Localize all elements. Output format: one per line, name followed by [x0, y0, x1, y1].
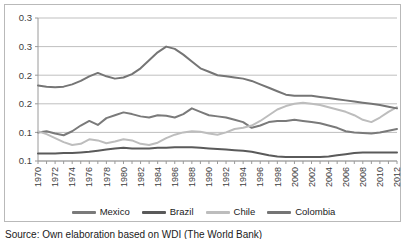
- legend-item-mexico[interactable]: Mexico: [72, 207, 130, 217]
- x-tick-label: 2008: [358, 167, 368, 187]
- y-tick-label: 0.2: [19, 98, 32, 109]
- legend-swatch-chile: [206, 211, 230, 214]
- chart-card: 0.10.10.20.20.30.3 197019721974197619781…: [4, 4, 401, 222]
- x-tick-label: 2012: [392, 167, 402, 187]
- y-tick-label: 0.3: [19, 41, 32, 52]
- figure-container: 0.10.10.20.20.30.3 197019721974197619781…: [0, 0, 406, 239]
- series-line-mexico: [38, 108, 397, 135]
- x-tick-label: 1982: [136, 167, 146, 187]
- x-tick-label: 2006: [341, 167, 351, 187]
- legend-item-brazil[interactable]: Brazil: [142, 207, 194, 217]
- chart-legend: MexicoBrazilChileColombia: [5, 203, 402, 221]
- x-tick-label: 1998: [273, 167, 283, 187]
- x-tick-label: 1986: [170, 167, 180, 187]
- y-tick-label: 0.1: [19, 127, 32, 138]
- legend-swatch-mexico: [72, 211, 96, 214]
- legend-label: Chile: [234, 207, 256, 217]
- x-tick-label: 2004: [324, 167, 334, 187]
- x-tick-label: 1972: [50, 167, 60, 187]
- y-tick-label: 0.3: [19, 12, 32, 23]
- y-tick-label: 0.1: [19, 155, 32, 166]
- series-line-brazil: [38, 147, 397, 157]
- x-tick-label: 1980: [119, 167, 129, 187]
- x-tick-label: 2010: [375, 167, 385, 187]
- legend-swatch-colombia: [267, 211, 291, 214]
- legend-item-chile[interactable]: Chile: [206, 207, 256, 217]
- x-tick-label: 1978: [102, 167, 112, 187]
- line-chart-svg: 0.10.10.20.20.30.3 197019721974197619781…: [5, 5, 402, 201]
- x-tick-label: 1988: [187, 167, 197, 187]
- y-axis-tick-labels: 0.10.10.20.20.30.3: [19, 12, 32, 166]
- x-tick-label: 1974: [67, 167, 77, 187]
- legend-swatch-brazil: [142, 211, 166, 214]
- x-tick-label: 1970: [33, 167, 43, 187]
- legend-label: Mexico: [100, 207, 130, 217]
- legend-label: Brazil: [170, 207, 194, 217]
- data-series-group: [38, 47, 397, 157]
- plot-area: 0.10.10.20.20.30.3 197019721974197619781…: [5, 5, 402, 201]
- series-line-chile: [38, 103, 397, 145]
- y-tick-label: 0.2: [19, 70, 32, 81]
- x-tick-label: 1994: [238, 167, 248, 187]
- x-tick-label: 1990: [204, 167, 214, 187]
- x-tick-label: 1976: [84, 167, 94, 187]
- x-tick-label: 2002: [307, 167, 317, 187]
- x-axis-tick-labels: 1970197219741976197819801982198419861988…: [33, 167, 402, 187]
- legend-label: Colombia: [295, 207, 335, 217]
- series-line-colombia: [38, 47, 397, 109]
- x-tick-label: 1996: [255, 167, 265, 187]
- x-tick-label: 2000: [290, 167, 300, 187]
- x-tick-label: 1984: [153, 167, 163, 187]
- figure-caption: Source: Own elaboration based on WDI (Th…: [5, 228, 401, 239]
- x-tick-label: 1992: [221, 167, 231, 187]
- legend-item-colombia[interactable]: Colombia: [267, 207, 335, 217]
